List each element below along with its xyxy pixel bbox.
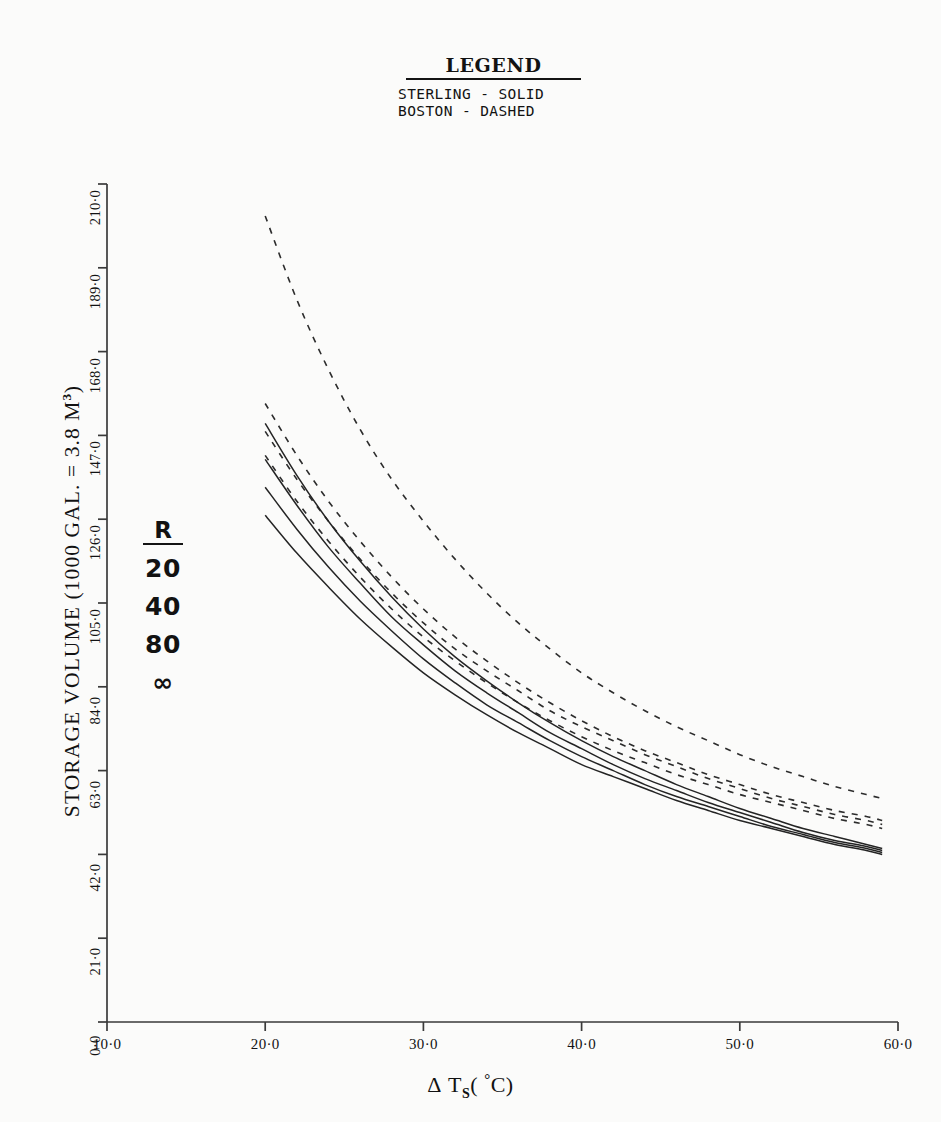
y-tick-label: 21·0 xyxy=(87,938,104,986)
plot-area xyxy=(0,0,941,1122)
x-tick-label: 20·0 xyxy=(235,1036,295,1053)
curve-boston-r-80 xyxy=(265,431,882,824)
x-tick-label: 60·0 xyxy=(868,1036,928,1053)
curve-boston-r-20 xyxy=(265,216,882,799)
curve-sterling-r-inf xyxy=(265,515,882,854)
x-tick-label: 50·0 xyxy=(710,1036,770,1053)
x-tick-label: 40·0 xyxy=(552,1036,612,1053)
curve-sterling-r-20 xyxy=(265,423,882,848)
data-curves xyxy=(265,216,882,854)
y-tick-label: 84·0 xyxy=(87,686,104,734)
y-tick-label: 189·0 xyxy=(87,267,104,315)
y-tick-label: 126·0 xyxy=(87,519,104,567)
y-tick-label: 168·0 xyxy=(87,351,104,399)
y-tick-label: 210·0 xyxy=(87,184,104,232)
curve-sterling-r-40 xyxy=(265,459,882,850)
y-tick-label: 63·0 xyxy=(87,770,104,818)
y-tick-label: 147·0 xyxy=(87,435,104,483)
curve-sterling-r-80 xyxy=(265,487,882,852)
curve-boston-r-40 xyxy=(265,403,882,820)
x-tick-label: 10·0 xyxy=(77,1036,137,1053)
y-tick-label: 105·0 xyxy=(87,603,104,651)
chart-figure: LEGEND STERLING - SOLID BOSTON - DASHED … xyxy=(0,0,941,1122)
y-tick-label: 42·0 xyxy=(87,854,104,902)
x-tick-label: 30·0 xyxy=(393,1036,453,1053)
x-axis-ticks xyxy=(107,1022,898,1031)
axes xyxy=(98,184,898,1031)
